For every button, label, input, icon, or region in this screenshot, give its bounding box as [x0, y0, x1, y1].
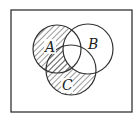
venn-diagram: A B C: [0, 0, 140, 127]
set-b-label: B: [87, 36, 98, 52]
set-c-label: C: [62, 77, 73, 93]
set-a-label: A: [43, 39, 55, 55]
